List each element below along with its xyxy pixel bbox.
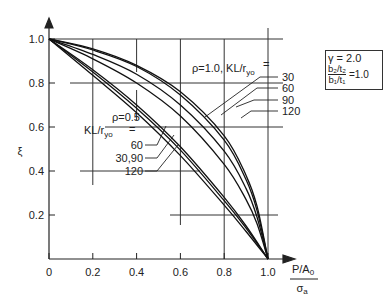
ratio-value: =1.0 [349,69,369,80]
rho-1-value-60: 60 [282,82,294,94]
rho-05-value-120: 120 [125,165,143,177]
x-axis-arrow-icon [283,255,295,263]
rho-1-value-120: 120 [282,105,300,117]
y-tick-label: 1.0 [29,33,44,45]
rho-05-value-30-90: 30,90 [115,152,143,164]
leader-rho-1-120 [241,111,278,118]
rho-1-label: ρ=1.0, KL/ryo [192,62,255,77]
rho-05-kl-sub: yo [104,130,113,139]
ratio-denominator: b₁/t₁ [328,75,346,85]
annotation-leaders [145,77,278,171]
chart-svg: 00.20.40.60.81.00.20.40.60.81.0 ξP/A0σaρ… [0,0,385,306]
x-axis-label-denominator-sub: a [303,287,308,296]
thickness-ratio-fraction: b₂/t₂ b₁/t₁ [328,64,346,85]
x-tick-label: 0.8 [217,266,232,278]
leader-rho-1-90 [236,100,278,107]
rho-05-kl-label: KL/ryo [84,124,113,139]
x-axis-label-numerator-sub: 0 [310,268,315,277]
x-tick-label: 0.6 [173,266,188,278]
y-tick-label: 0.6 [29,121,44,133]
x-tick-label: 0 [46,266,52,278]
rho-05-label: ρ=0.5 [112,111,140,123]
x-tick-label: 0.2 [85,266,100,278]
x-tick-label: 0.4 [129,266,144,278]
y-tick-label: 0.8 [29,77,44,89]
x-tick-label: 1.0 [260,266,275,278]
rho-05-eq: = [129,123,135,135]
y-axis-arrow-icon [45,18,53,28]
annotations: ξP/A0σaρ=1.0, KL/ryo=306090120ρ=0.5KL/ry… [18,58,318,296]
rho-05-value-60: 60 [131,139,143,151]
rho-1-label-sub: yo [246,68,255,77]
y-axis-label: ξ [18,145,23,157]
x-axis-label-numerator: P/A0 [292,263,315,277]
parameter-box: γ = 2.0 b₂/t₂ b₁/t₁ =1.0 [325,50,383,90]
y-tick-label: 0.2 [29,209,44,221]
y-tick-label: 0.4 [29,165,44,177]
rho-1-eq: = [263,58,269,70]
x-axis-label-denominator: σa [296,282,308,296]
